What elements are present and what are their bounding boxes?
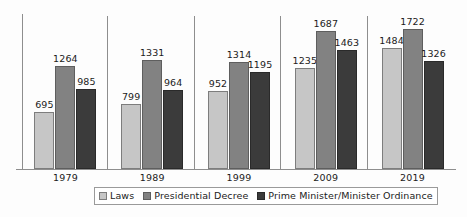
legend-item: Prime Minister/Minister Ordinance bbox=[257, 190, 432, 201]
bar bbox=[424, 61, 444, 169]
bar bbox=[55, 66, 75, 169]
bar bbox=[142, 60, 162, 169]
bar bbox=[208, 91, 228, 169]
legend-label: Prime Minister/Minister Ordinance bbox=[268, 190, 432, 201]
legend-item: Presidential Decree bbox=[143, 190, 248, 201]
bar bbox=[121, 104, 141, 169]
bar-value-label: 1264 bbox=[53, 54, 78, 64]
bar bbox=[229, 62, 249, 169]
group-separator-line bbox=[280, 16, 281, 169]
group-separator-line bbox=[107, 16, 108, 169]
legend-swatch-pm-minister-ordinance bbox=[257, 192, 265, 200]
bar-group: 6951264985 bbox=[34, 14, 96, 169]
bar-value-label: 1326 bbox=[421, 49, 446, 59]
bar-slot: 1195 bbox=[250, 14, 270, 169]
bar bbox=[295, 68, 315, 169]
legend-swatch-presidential-decree bbox=[143, 192, 151, 200]
bar-slot: 1264 bbox=[55, 14, 75, 169]
bar-slot: 1484 bbox=[382, 14, 402, 169]
group-separator-line bbox=[194, 16, 195, 169]
bar-slot: 1722 bbox=[403, 14, 423, 169]
bar-slot: 1331 bbox=[142, 14, 162, 169]
x-axis-tick-label: 1989 bbox=[109, 172, 196, 183]
chart-legend: LawsPresidential DecreePrime Minister/Mi… bbox=[94, 187, 438, 205]
x-axis-tick-label: 2019 bbox=[369, 172, 456, 183]
bar-value-label: 1463 bbox=[335, 38, 360, 48]
bar-value-label: 1235 bbox=[293, 56, 318, 66]
bar bbox=[316, 31, 336, 169]
bar-slot: 985 bbox=[76, 14, 96, 169]
bar bbox=[76, 89, 96, 169]
legend-item: Laws bbox=[99, 190, 134, 201]
bar-slot: 1314 bbox=[229, 14, 249, 169]
bar-value-label: 1722 bbox=[400, 17, 425, 27]
bar-slot: 799 bbox=[121, 14, 141, 169]
bar-value-label: 952 bbox=[209, 79, 227, 89]
x-axis-tick-label: 2009 bbox=[282, 172, 369, 183]
x-axis-line bbox=[16, 169, 456, 170]
plot-area: 6951264985799133196495213141195123516871… bbox=[22, 14, 456, 169]
legend-label: Laws bbox=[110, 190, 134, 201]
bar-slot: 952 bbox=[208, 14, 228, 169]
bar-slot: 1463 bbox=[337, 14, 357, 169]
bar bbox=[337, 50, 357, 169]
bar-slot: 1235 bbox=[295, 14, 315, 169]
bar-group: 123516871463 bbox=[295, 14, 357, 169]
bar-slot: 964 bbox=[163, 14, 183, 169]
legend-label: Presidential Decree bbox=[154, 190, 248, 201]
caption-sliver bbox=[0, 208, 467, 217]
bar-group: 7991331964 bbox=[121, 14, 183, 169]
bar-group: 95213141195 bbox=[208, 14, 270, 169]
x-axis-tick-label: 1979 bbox=[22, 172, 109, 183]
bar-value-label: 799 bbox=[122, 92, 140, 102]
legend-swatch-laws bbox=[99, 192, 107, 200]
bar-value-label: 1331 bbox=[140, 48, 165, 58]
bar bbox=[250, 72, 270, 169]
bar-value-label: 1484 bbox=[379, 36, 404, 46]
bar-value-label: 1687 bbox=[314, 19, 339, 29]
bar-group: 148417221326 bbox=[382, 14, 444, 169]
y-axis-line bbox=[22, 14, 23, 169]
bar-slot: 1326 bbox=[424, 14, 444, 169]
bar bbox=[34, 112, 54, 169]
bar-value-label: 695 bbox=[35, 100, 53, 110]
group-separator-line bbox=[367, 16, 368, 169]
bar-value-label: 1195 bbox=[248, 60, 273, 70]
bar-slot: 695 bbox=[34, 14, 54, 169]
bar bbox=[382, 48, 402, 169]
bar-value-label: 985 bbox=[77, 77, 95, 87]
bar bbox=[403, 29, 423, 169]
x-axis-tick-label: 1999 bbox=[196, 172, 283, 183]
bar-slot: 1687 bbox=[316, 14, 336, 169]
bar bbox=[163, 90, 183, 169]
bar-value-label: 964 bbox=[164, 78, 182, 88]
chart-figure: 6951264985799133196495213141195123516871… bbox=[0, 0, 467, 217]
